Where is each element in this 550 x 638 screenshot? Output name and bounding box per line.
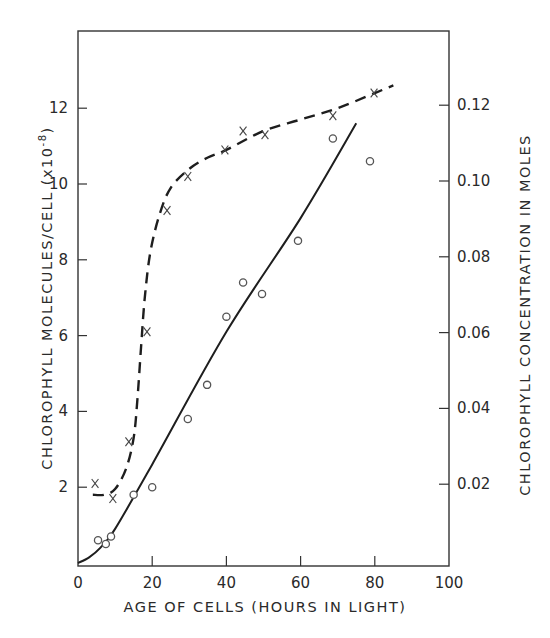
y-right-tick-label: 0.12 — [457, 96, 490, 114]
y-axis-left-title-close: ) — [39, 126, 55, 133]
x-marker — [109, 494, 116, 503]
y-right-tick-label: 0.10 — [457, 172, 490, 190]
y-right-tick-label: 0.04 — [457, 399, 490, 417]
x-tick-label: 0 — [73, 574, 83, 592]
circle-marker — [366, 158, 373, 165]
y-axis-right-ticks: 0.020.040.060.080.100.12 — [439, 96, 490, 493]
x-tick-label: 80 — [365, 574, 384, 592]
x-marker — [144, 327, 151, 336]
y-right-tick-label: 0.02 — [457, 475, 490, 493]
x-tick-label: 20 — [143, 574, 162, 592]
x-marker — [329, 111, 336, 120]
y-axis-left-title-main: CHLOROPHYLL MOLECULES/CELL (x10 — [39, 146, 55, 469]
solid-fit-line — [78, 123, 356, 563]
x-axis-ticks: 020406080100 — [73, 556, 463, 592]
series-lines — [78, 85, 393, 563]
x-marker — [184, 172, 191, 181]
x-marker — [125, 437, 132, 446]
y-axis-left-title: CHLOROPHYLL MOLECULES/CELL (x10-8) — [37, 126, 55, 469]
x-axis-title: AGE OF CELLS (HOURS IN LIGHT) — [123, 599, 406, 615]
x-marker — [92, 479, 99, 488]
x-marker — [240, 127, 247, 136]
plot-frame — [78, 31, 449, 566]
y-tick-label: 8 — [58, 251, 68, 269]
circle-marker — [223, 313, 230, 320]
circle-marker — [107, 533, 114, 540]
circle-marker — [102, 540, 109, 547]
circle-marker — [239, 279, 246, 286]
circle-marker — [329, 135, 336, 142]
chart: 020406080100 24681012 0.020.040.060.080.… — [0, 0, 550, 638]
circle-marker — [130, 491, 137, 498]
y-right-tick-label: 0.06 — [457, 324, 490, 342]
y-axis-right-title: CHLOROPHYLL CONCENTRATION IN MOLES — [517, 134, 533, 496]
y-tick-label: 12 — [49, 99, 68, 117]
y-right-tick-label: 0.08 — [457, 248, 490, 266]
circle-marker — [204, 381, 211, 388]
y-axis-left-title-exp: -8 — [37, 133, 48, 146]
x-tick-label: 40 — [217, 574, 236, 592]
x-marker — [164, 206, 171, 215]
dashed-fit-curve — [93, 85, 394, 495]
y-tick-label: 2 — [58, 478, 68, 496]
x-marker — [262, 130, 269, 139]
circle-marker — [149, 484, 156, 491]
x-tick-label: 100 — [435, 574, 464, 592]
circle-marker — [94, 537, 101, 544]
circle-marker — [184, 415, 191, 422]
x-tick-label: 60 — [291, 574, 310, 592]
circle-marker — [258, 290, 265, 297]
y-tick-label: 4 — [58, 402, 68, 420]
circle-marker — [294, 237, 301, 244]
y-tick-label: 6 — [58, 327, 68, 345]
